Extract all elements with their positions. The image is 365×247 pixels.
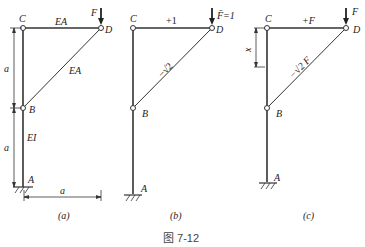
load-label: F: [90, 7, 98, 18]
member-label-cd: EA: [54, 16, 68, 27]
fixed-support-icon: [259, 183, 277, 189]
hinge-b: [265, 106, 270, 111]
node-label-b: B: [142, 108, 148, 119]
hinge-d: [210, 26, 215, 31]
member-label-bd: EA: [68, 65, 82, 76]
panel-caption-b: (b): [170, 210, 182, 222]
panel-caption-c: (c): [303, 210, 315, 222]
panel-caption-a: (a): [58, 210, 70, 222]
hinge-c: [265, 26, 270, 31]
node-label-b: B: [276, 108, 282, 119]
node-label-c: C: [130, 13, 137, 24]
node-label-a: A: [273, 172, 281, 183]
hinge-b: [131, 106, 136, 111]
node-label-c: C: [265, 13, 272, 24]
panel-c: C D B A F +F −√2 F x (c): [242, 6, 361, 222]
member-label-bd: −√2 F: [287, 54, 314, 81]
dim-label-lower: a: [4, 142, 9, 153]
node-label-d: D: [104, 24, 113, 35]
node-label-c: C: [19, 13, 26, 24]
node-label-b: B: [29, 104, 35, 115]
node-label-a: A: [27, 174, 35, 185]
node-label-d: D: [352, 24, 361, 35]
dim-label-horizontal: a: [60, 185, 65, 196]
panel-a: C D B A F EA EA EI a a a (a): [4, 7, 113, 222]
hinge-c: [131, 26, 136, 31]
fixed-support-icon: [13, 187, 33, 193]
node-label-d: D: [215, 24, 224, 35]
load-label: F: [351, 6, 359, 17]
node-label-a: A: [140, 183, 148, 194]
figure-7-12: C D B A F EA EA EI a a a (a) C D B A F̄=…: [0, 0, 365, 247]
hinge-d: [344, 26, 349, 31]
fixed-support-icon: [124, 195, 142, 201]
hinge-d: [99, 26, 104, 31]
dim-label-upper: a: [4, 63, 9, 74]
truss-diagrams: C D B A F EA EA EI a a a (a) C D B A F̄=…: [0, 0, 365, 247]
member-label-ab: EI: [26, 132, 37, 143]
dim-label-x: x: [242, 47, 253, 53]
member-label-cd: +1: [166, 15, 177, 26]
member-bd: [23, 28, 101, 108]
dimension-x: [254, 28, 265, 67]
load-label: F̄=1: [216, 10, 235, 21]
figure-caption: 图 7-12: [163, 232, 199, 244]
member-label-bd: −√2: [156, 60, 175, 79]
member-label-cd: +F: [302, 15, 316, 26]
panel-b: C D B A F̄=1 +1 −√2 (b): [124, 8, 235, 222]
